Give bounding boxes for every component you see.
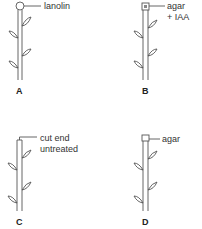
label-agar-iaa-line1: agar bbox=[167, 1, 185, 11]
plant-stem-diagram bbox=[0, 0, 202, 229]
panel-letter-b: B bbox=[142, 86, 149, 96]
lanolin-ball-icon bbox=[16, 2, 24, 10]
label-lanolin: lanolin bbox=[44, 1, 70, 11]
panel-a-stem bbox=[9, 2, 41, 80]
panel-letter-d: D bbox=[142, 217, 149, 227]
panel-b-stem bbox=[134, 3, 165, 80]
panel-d-stem bbox=[134, 135, 160, 211]
panel-letter-a: A bbox=[16, 86, 23, 96]
panel-letter-c: C bbox=[16, 217, 23, 227]
label-cut-end-line2: untreated bbox=[40, 144, 78, 154]
panel-c-stem bbox=[8, 137, 37, 211]
agar-block-icon bbox=[142, 135, 149, 141]
label-cut-end-line1: cut end bbox=[40, 133, 70, 143]
label-agar: agar bbox=[162, 134, 180, 144]
label-agar-iaa-line2: + IAA bbox=[167, 12, 189, 22]
